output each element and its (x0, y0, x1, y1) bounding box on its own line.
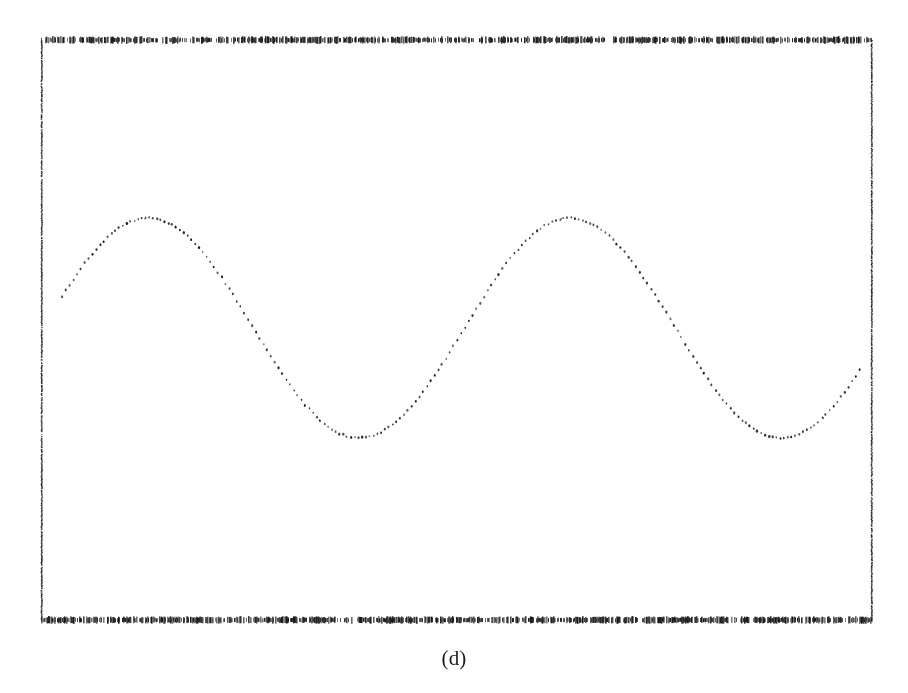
plot-area (0, 0, 908, 693)
figure-caption: (d) (0, 644, 908, 672)
figure-container: (d) (0, 0, 908, 693)
